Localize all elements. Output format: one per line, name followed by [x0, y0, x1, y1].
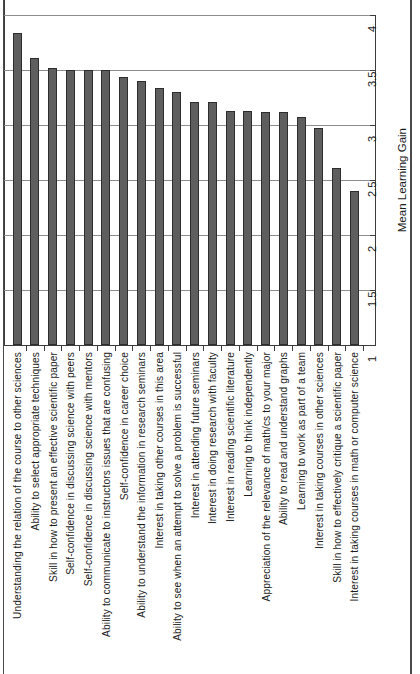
category-label: Learning to think independently [242, 352, 253, 497]
category-axis-line [4, 0, 5, 345]
value-axis-tick-label: 3 [366, 120, 378, 142]
category-label: Interest in taking courses in other scie… [313, 352, 324, 549]
category-label: Skill in how to present an effective sci… [47, 352, 58, 582]
value-axis-title: Mean Learning Gain [396, 128, 408, 232]
bar [13, 33, 22, 345]
category-labels-group: Understanding the relation of the course… [4, 352, 410, 672]
category-label: Ability to understand the information in… [136, 352, 147, 618]
category-axis-tick [186, 346, 187, 351]
category-axis-tick [257, 346, 258, 351]
bar [30, 58, 39, 345]
bar [226, 111, 235, 345]
category-axis-tick [328, 346, 329, 351]
bar [48, 68, 57, 345]
category-axis-tick [97, 346, 98, 351]
category-label: Self-confidence in career choice [118, 352, 129, 500]
value-axis-tick-label: 4 [366, 10, 378, 32]
bar [314, 128, 323, 345]
bar [137, 81, 146, 345]
category-label: Ability to communicate to instructors is… [100, 352, 111, 637]
category-axis-tick [292, 346, 293, 351]
bar [84, 70, 93, 345]
category-label: Interest in doing research with faculty [207, 352, 218, 524]
category-axis-tick [345, 346, 346, 351]
bar [66, 70, 75, 345]
category-axis-tick [132, 346, 133, 351]
bar [332, 168, 341, 345]
bar [155, 88, 164, 345]
category-label: Self-confidence in discussing science wi… [83, 352, 94, 586]
category-axis-tick [363, 346, 364, 351]
category-label: Skill in how to effectively critique a s… [331, 352, 342, 583]
category-axis-tick [168, 346, 169, 351]
bar [243, 111, 252, 345]
category-label: Interest in attending future seminars [189, 352, 200, 518]
category-label: Ability to see when an attempt to solve … [171, 352, 182, 641]
category-axis-tick [221, 346, 222, 351]
category-label: Self-confidence in discussing science wi… [65, 352, 76, 575]
page-border-right [410, 0, 412, 674]
category-label: Learning to work as part of a team [296, 352, 307, 510]
value-axis-baseline [4, 345, 376, 346]
value-axis-tick-label: 3.5 [366, 65, 378, 87]
bar [101, 70, 110, 345]
chart-page: 11.522.533.54 Mean Learning Gain Underst… [0, 0, 420, 674]
category-axis-tick [274, 346, 275, 351]
category-axis-tick [26, 346, 27, 351]
category-label: Appreciation of the relevance of math/cs… [260, 352, 271, 601]
bar [279, 112, 288, 345]
gridline [4, 15, 376, 16]
category-axis-tick [61, 346, 62, 351]
bar [190, 102, 199, 345]
category-axis-tick [310, 346, 311, 351]
plot-area: 11.522.533.54 Mean Learning Gain [4, 0, 410, 345]
category-label: Ability to select appropriate techniques [29, 352, 40, 530]
category-axis-tick [239, 346, 240, 351]
category-axis-tick [150, 346, 151, 351]
bar [208, 102, 217, 345]
bar [297, 117, 306, 345]
category-axis-tick [44, 346, 45, 351]
category-axis-tick [79, 346, 80, 351]
bar [261, 112, 270, 345]
category-label: Interest in taking other courses in this… [154, 352, 165, 548]
value-axis-tick-label: 2.5 [366, 175, 378, 197]
bar [172, 92, 181, 345]
category-label: Interest in reading scientific literatur… [225, 352, 236, 522]
value-axis-tick-label: 1.5 [366, 285, 378, 307]
category-label: Ability to read and understand graphs [278, 352, 289, 525]
value-axis-tick-label: 2 [366, 230, 378, 252]
gridline [4, 70, 376, 71]
category-axis-tick [115, 346, 116, 351]
category-label: Interest in taking courses in math or co… [349, 352, 360, 601]
category-label: Understanding the relation of the course… [12, 352, 23, 619]
category-axis-tick [203, 346, 204, 351]
bar [119, 77, 128, 345]
bar [350, 191, 359, 345]
